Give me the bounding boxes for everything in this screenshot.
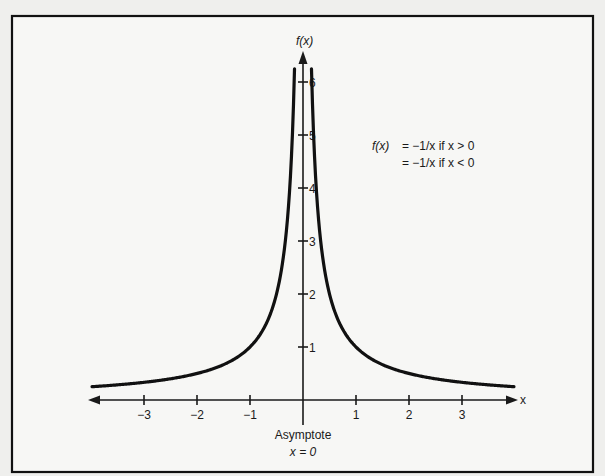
- y-tick-label: 2: [309, 288, 316, 302]
- x-tick-label: 2: [406, 408, 413, 422]
- y-tick-label: 3: [309, 235, 316, 249]
- y-tick-label: 1: [309, 341, 316, 355]
- chart-stage: −3−2−1123123456 f(x) x f(x) = −1/x if x …: [0, 0, 605, 476]
- x-tick-label: 1: [353, 408, 360, 422]
- equation-line-1: = −1/x if x > 0: [402, 139, 475, 153]
- x-tick-label: −1: [243, 408, 257, 422]
- x-tick-label: −3: [137, 408, 151, 422]
- equation-line-2: = −1/x if x < 0: [402, 156, 475, 170]
- function-plot: −3−2−1123123456 f(x) x f(x) = −1/x if x …: [0, 0, 605, 476]
- asymptote-title: Asymptote: [275, 428, 332, 442]
- y-axis-label: f(x): [296, 34, 313, 48]
- asymptote-equation: x = 0: [289, 445, 317, 459]
- x-axis-label: x: [520, 393, 526, 407]
- equation-lhs: f(x): [372, 139, 389, 153]
- x-tick-label: −2: [190, 408, 204, 422]
- x-tick-label: 3: [459, 408, 466, 422]
